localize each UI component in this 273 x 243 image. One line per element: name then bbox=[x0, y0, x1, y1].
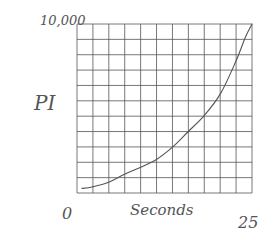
hand-drawn-chart: 10,000 PI 0 Seconds 25 bbox=[0, 0, 273, 243]
x-min-label: 0 bbox=[62, 204, 72, 223]
x-axis-label: Seconds bbox=[130, 201, 194, 219]
chart-grid bbox=[77, 24, 252, 193]
y-max-label: 10,000 bbox=[40, 13, 86, 28]
data-curve bbox=[82, 24, 252, 188]
y-axis-label: PI bbox=[33, 91, 56, 115]
x-max-label: 25 bbox=[237, 213, 258, 232]
